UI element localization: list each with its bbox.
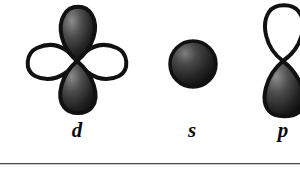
- s-orbital-illustration: [162, 0, 224, 120]
- horizontal-rule: [0, 163, 300, 165]
- p-orbital-lobe-bottom: [265, 61, 300, 116]
- d-orbital-label: d: [57, 120, 97, 141]
- p-orbital-svg: [255, 0, 300, 120]
- s-orbital-label: s: [172, 120, 212, 141]
- s-orbital-sphere: [170, 41, 216, 87]
- d-orbital-illustration: [20, 0, 135, 120]
- s-orbital-svg: [162, 0, 224, 120]
- d-orbital-svg: [20, 0, 135, 120]
- p-orbital-illustration: [255, 0, 300, 120]
- p-orbital-label: p: [263, 120, 300, 141]
- p-orbital-lobe-top: [265, 5, 300, 61]
- orbital-shapes-figure: d s p: [0, 0, 300, 173]
